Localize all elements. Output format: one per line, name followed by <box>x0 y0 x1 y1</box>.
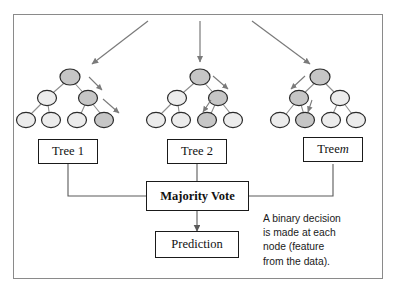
prediction-box[interactable]: Prediction <box>155 231 239 258</box>
tree-2-label-text: Tree 2 <box>181 144 213 159</box>
caption-line-2: is made at each <box>263 226 375 240</box>
majority-vote-text: Majority Vote <box>160 189 235 204</box>
caption-line-1: A binary decision <box>263 212 375 226</box>
tree-m-label-prefix: Tree <box>317 142 339 157</box>
caption-line-3: node (feature <box>263 240 375 254</box>
caption-line-4: from the data). <box>263 255 375 269</box>
majority-vote-box[interactable]: Majority Vote <box>146 181 249 211</box>
prediction-text: Prediction <box>171 237 222 252</box>
tree-m-label-symbol: m <box>340 142 349 157</box>
tree-1-label-box[interactable]: Tree 1 <box>38 139 98 164</box>
diagram-canvas: Tree 1 Tree 2 Tree m Majority Vote Predi… <box>0 0 396 294</box>
annotation-caption: A binary decision is made at each node (… <box>263 212 375 269</box>
tree-1-label-text: Tree 1 <box>52 144 84 159</box>
tree-2-label-box[interactable]: Tree 2 <box>167 139 227 164</box>
tree-m-label-box[interactable]: Tree m <box>303 137 363 162</box>
